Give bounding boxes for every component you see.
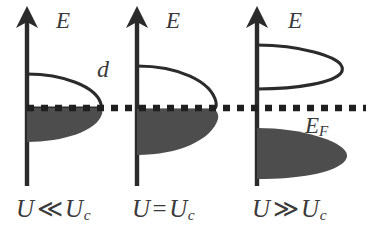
caption-weak-coupling: U≪Uc: [16, 196, 91, 223]
caption-2-relation: =: [151, 195, 170, 222]
energy-axis-arrow-1: [16, 6, 38, 186]
panel-strong-coupling: [246, 6, 347, 186]
caption-strong-coupling: U≫Uc: [252, 196, 327, 223]
caption-1-subscript: c: [84, 206, 91, 223]
panel-weak-coupling: [16, 6, 102, 186]
caption-1-rhs: U: [65, 195, 84, 222]
lower-band-filled-2: [137, 109, 218, 155]
fermi-level-label-subscript: F: [319, 122, 328, 139]
caption-3-relation: ≫: [271, 195, 302, 222]
upper-band-outline-3: [257, 45, 343, 89]
caption-2-subscript: c: [188, 206, 195, 223]
lower-band-filled-3: [257, 128, 347, 179]
caption-1-relation: ≪: [35, 195, 66, 222]
upper-band-outline-2: [137, 66, 216, 110]
caption-1-lhs: U: [16, 195, 35, 222]
fermi-level-label-base: E: [305, 113, 319, 138]
panel-critical: [126, 6, 218, 186]
caption-2-lhs: U: [132, 195, 151, 222]
caption-3-subscript: c: [320, 206, 327, 223]
caption-2-rhs: U: [169, 195, 188, 222]
energy-axis-arrow-2: [126, 6, 148, 186]
caption-3-lhs: U: [252, 195, 271, 222]
lower-band-filled-1: [27, 108, 102, 142]
d-band-label: d: [97, 57, 109, 81]
axis-label-energy-2: E: [166, 9, 180, 32]
axis-label-energy-3: E: [288, 9, 302, 32]
upper-band-outline-1: [27, 74, 101, 108]
caption-critical: U=Uc: [132, 196, 195, 223]
caption-3-rhs: U: [301, 195, 320, 222]
fermi-level-label: EF: [305, 114, 328, 139]
axis-label-energy-1: E: [56, 9, 70, 32]
mott-transition-figure: E E E d EF U≪Uc U=Uc U≫Uc: [0, 0, 374, 231]
